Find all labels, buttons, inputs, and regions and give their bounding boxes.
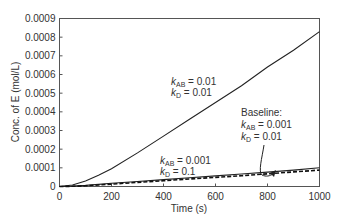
- x-axis-label: Time (s): [171, 203, 207, 214]
- svg-text:kD = 0.1: kD = 0.1: [160, 166, 196, 178]
- y-tick-label: 0.0006: [25, 69, 56, 80]
- y-axis: 00.00010.00020.00030.00040.00050.00060.0…: [25, 13, 63, 192]
- x-tick-label: 400: [155, 191, 172, 202]
- x-tick-label: 200: [103, 191, 120, 202]
- chart: 00.00010.00020.00030.00040.00050.00060.0…: [0, 0, 339, 220]
- annotation-baseline: Baseline: kAB = 0.001 kD = 0.01: [241, 107, 292, 177]
- annotation-high: kAB = 0.01 kD = 0.01: [171, 76, 217, 99]
- y-axis-label: Conc. of E (mol/L): [10, 62, 21, 143]
- y-tick-label: 0.0001: [25, 162, 56, 173]
- x-tick-label: 800: [259, 191, 276, 202]
- y-tick-label: 0: [50, 181, 56, 192]
- y-tick-label: 0.0009: [25, 13, 56, 24]
- x-tick-label: 1000: [308, 191, 331, 202]
- y-tick-label: 0.0007: [25, 50, 56, 61]
- y-tick-label: 0.0002: [25, 144, 56, 155]
- svg-text:kD = 0.01: kD = 0.01: [171, 87, 212, 99]
- y-tick-label: 0.0003: [25, 125, 56, 136]
- line-chart: 00.00010.00020.00030.00040.00050.00060.0…: [0, 0, 339, 220]
- y-tick-label: 0.0008: [25, 32, 56, 43]
- svg-text:kAB = 0.001: kAB = 0.001: [241, 119, 292, 131]
- y-tick-label: 0.0005: [25, 88, 56, 99]
- x-tick-label: 0: [57, 191, 63, 202]
- y-tick-label: 0.0004: [25, 106, 56, 117]
- svg-text:kD = 0.01: kD = 0.01: [241, 131, 282, 143]
- annotation-kd-high: kAB = 0.001 kD = 0.1: [160, 155, 211, 178]
- svg-text:Baseline:: Baseline:: [241, 107, 282, 118]
- x-tick-label: 600: [207, 191, 224, 202]
